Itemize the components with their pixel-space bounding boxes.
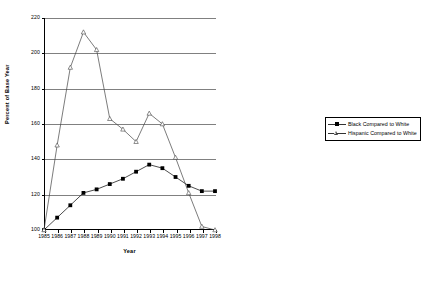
line-chart: Percent of Base Year 1001201401601802002… xyxy=(0,0,434,281)
data-point-marker xyxy=(81,30,85,34)
filled-square-marker-icon xyxy=(328,120,346,129)
data-point-marker xyxy=(82,191,86,195)
data-point-marker xyxy=(55,216,59,220)
data-point-marker xyxy=(68,203,72,207)
data-point-marker xyxy=(121,177,125,181)
open-triangle-marker-icon xyxy=(328,129,346,138)
legend-label-hispanic: Hispanic Compared to White xyxy=(346,131,417,136)
data-point-marker xyxy=(95,187,99,191)
chart-legend: Black Compared to White Hispanic Compare… xyxy=(325,117,421,141)
data-point-marker xyxy=(108,116,112,120)
data-point-marker xyxy=(186,191,190,195)
data-point-marker xyxy=(173,155,177,159)
data-point-marker xyxy=(160,166,164,170)
legend-item-black[interactable]: Black Compared to White xyxy=(328,120,417,129)
legend-label-black: Black Compared to White xyxy=(346,122,409,127)
data-point-marker xyxy=(68,65,72,69)
data-point-marker xyxy=(200,224,204,228)
data-point-marker xyxy=(174,175,178,179)
data-point-marker xyxy=(55,143,59,147)
data-point-marker xyxy=(213,189,217,193)
data-point-marker xyxy=(147,111,151,115)
x-axis-title: Year xyxy=(44,248,215,254)
series-line xyxy=(44,32,215,230)
series-line xyxy=(44,165,215,230)
series-hispanic xyxy=(42,30,217,232)
data-point-marker xyxy=(147,163,151,167)
data-point-marker xyxy=(187,184,191,188)
data-point-marker xyxy=(134,170,138,174)
data-point-marker xyxy=(200,189,204,193)
legend-item-hispanic[interactable]: Hispanic Compared to White xyxy=(328,129,417,138)
data-point-marker xyxy=(108,182,112,186)
